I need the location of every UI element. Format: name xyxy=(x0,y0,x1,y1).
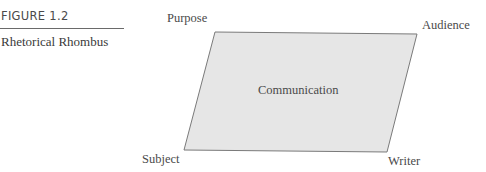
corner-label-subject: Subject xyxy=(142,152,180,167)
center-label-communication: Communication xyxy=(258,83,339,98)
corner-label-purpose: Purpose xyxy=(167,11,207,26)
rhetorical-rhombus-diagram xyxy=(0,0,486,172)
corner-label-writer: Writer xyxy=(388,154,420,169)
corner-label-audience: Audience xyxy=(422,18,470,33)
